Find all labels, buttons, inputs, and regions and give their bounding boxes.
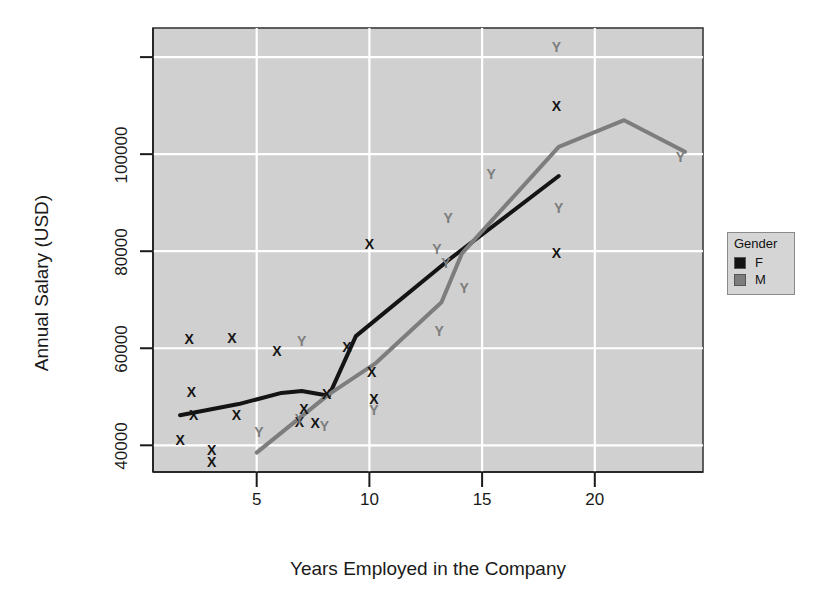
data-point-marker-f: X xyxy=(207,454,217,470)
data-point-marker-f: X xyxy=(184,331,194,347)
legend-label: M xyxy=(755,273,766,286)
data-point-marker-f: X xyxy=(365,236,375,252)
data-point-marker-f: X xyxy=(552,245,562,261)
legend-label: F xyxy=(755,256,763,269)
data-point-marker-m: Y xyxy=(676,149,686,165)
legend-title: Gender xyxy=(734,237,794,251)
x-tick-label: 5 xyxy=(227,490,287,510)
data-point-marker-f: X xyxy=(272,343,282,359)
data-point-marker-m: Y xyxy=(552,39,562,55)
legend-swatch-m xyxy=(734,274,746,286)
x-axis-title: Years Employed in the Company xyxy=(153,558,703,580)
y-tick-label: 60000 xyxy=(112,304,132,394)
data-point-marker-m: Y xyxy=(554,200,564,216)
data-point-marker-f: X xyxy=(189,407,199,423)
data-point-marker-m: Y xyxy=(459,280,469,296)
data-point-marker-f: X xyxy=(552,98,562,114)
x-tick-label: 10 xyxy=(339,490,399,510)
data-point-marker-m: Y xyxy=(435,323,445,339)
legend-entries: FM xyxy=(734,254,794,288)
data-point-marker-m: Y xyxy=(254,424,264,440)
data-point-marker-m: Y xyxy=(369,402,379,418)
data-point-marker-f: X xyxy=(227,330,237,346)
data-point-marker-m: Y xyxy=(297,333,307,349)
data-point-marker-m: Y xyxy=(444,210,454,226)
data-point-marker-f: X xyxy=(322,386,332,402)
legend-item-f[interactable]: F xyxy=(734,254,794,271)
data-point-marker-m: Y xyxy=(295,411,305,427)
data-point-marker-m: Y xyxy=(441,255,451,271)
legend: Gender FM xyxy=(727,232,795,295)
y-axis-title: Annual Salary (USD) xyxy=(31,133,53,433)
data-point-marker-f: X xyxy=(187,384,197,400)
x-tick-label: 15 xyxy=(452,490,512,510)
data-point-marker-m: Y xyxy=(486,166,496,182)
data-point-marker-f: X xyxy=(342,339,352,355)
chart-figure: Annual Salary (USD) Years Employed in th… xyxy=(0,0,840,614)
x-tick-label: 20 xyxy=(565,490,625,510)
data-point-marker-f: X xyxy=(232,407,242,423)
y-tick-label: 40000 xyxy=(112,401,132,491)
y-tick-label: 80000 xyxy=(112,207,132,297)
legend-swatch-f xyxy=(734,257,746,269)
data-point-marker-f: X xyxy=(367,364,377,380)
y-tick-label: 100000 xyxy=(112,110,132,200)
data-point-marker-f: X xyxy=(175,432,185,448)
legend-item-m[interactable]: M xyxy=(734,271,794,288)
data-point-marker-m: Y xyxy=(320,418,330,434)
